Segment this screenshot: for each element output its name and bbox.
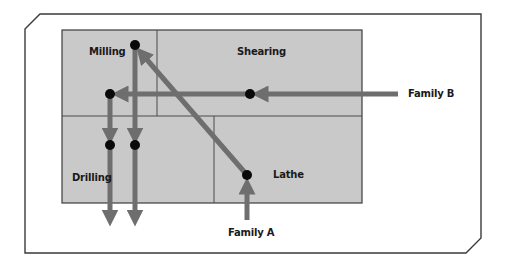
label-shearing: Shearing xyxy=(237,46,286,57)
node-drilling-a xyxy=(130,140,140,150)
node-lathe xyxy=(242,170,252,180)
node-milling-b xyxy=(105,89,115,99)
label-drilling: Drilling xyxy=(72,172,112,183)
node-milling-a xyxy=(130,40,140,50)
label-milling: Milling xyxy=(89,46,126,57)
node-drilling-b xyxy=(105,140,115,150)
label-lathe: Lathe xyxy=(273,169,304,180)
label-family-b: Family B xyxy=(408,88,454,99)
label-family-a: Family A xyxy=(228,227,274,238)
node-shearing xyxy=(245,89,255,99)
